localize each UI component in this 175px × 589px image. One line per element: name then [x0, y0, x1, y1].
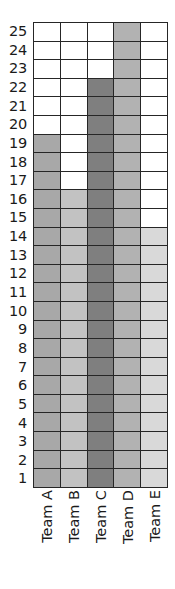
y-tick-label: 1	[0, 469, 30, 488]
grid-cell-filled	[34, 302, 60, 321]
plot-grid	[33, 22, 168, 488]
grid-cell-filled	[114, 42, 140, 61]
grid-cell-filled	[88, 79, 114, 98]
grid-cell-filled	[141, 413, 167, 432]
grid-cell-empty	[141, 135, 167, 154]
grid-cell-empty	[34, 60, 60, 79]
x-tick-label-text: Team E	[147, 490, 162, 542]
grid-cell-filled	[34, 395, 60, 414]
grid-cell-filled	[34, 339, 60, 358]
grid-cell-empty	[61, 97, 87, 116]
y-tick-label: 25	[0, 22, 30, 41]
grid-cell-filled	[34, 469, 60, 487]
grid-cell-filled	[141, 451, 167, 470]
bar-column	[88, 23, 115, 487]
grid-cell-filled	[114, 432, 140, 451]
grid-cell-filled	[61, 432, 87, 451]
y-tick-label: 4	[0, 413, 30, 432]
y-tick-label: 22	[0, 78, 30, 97]
grid-cell-empty	[88, 42, 114, 61]
grid-cell-filled	[61, 376, 87, 395]
y-tick-label: 6	[0, 376, 30, 395]
grid-cell-filled	[34, 451, 60, 470]
grid-cell-filled	[61, 228, 87, 247]
grid-cell-filled	[114, 339, 140, 358]
y-tick-label: 14	[0, 227, 30, 246]
y-tick-label: 18	[0, 152, 30, 171]
bar-column	[141, 23, 167, 487]
grid-cell-filled	[114, 135, 140, 154]
grid-cell-empty	[61, 172, 87, 191]
grid-cell-filled	[114, 451, 140, 470]
grid-cell-empty	[141, 172, 167, 191]
x-tick-label-text: Team D	[120, 490, 135, 544]
grid-cell-filled	[88, 358, 114, 377]
grid-cell-filled	[114, 60, 140, 79]
grid-cell-filled	[61, 339, 87, 358]
grid-cell-filled	[34, 153, 60, 172]
grid-cell-filled	[34, 321, 60, 340]
grid-cell-filled	[34, 209, 60, 228]
grid-cell-filled	[114, 79, 140, 98]
grid-cell-empty	[61, 79, 87, 98]
grid-cell-empty	[61, 116, 87, 135]
grid-cell-empty	[34, 23, 60, 42]
bar-column	[114, 23, 141, 487]
grid-cell-filled	[34, 172, 60, 191]
grid-cell-filled	[114, 116, 140, 135]
grid-cell-empty	[141, 190, 167, 209]
grid-cell-filled	[34, 283, 60, 302]
x-tick-label: Team B	[60, 488, 87, 589]
y-tick-label: 11	[0, 283, 30, 302]
grid-cell-filled	[114, 190, 140, 209]
grid-cell-empty	[61, 153, 87, 172]
grid-cell-filled	[34, 246, 60, 265]
grid-cell-filled	[88, 321, 114, 340]
grid-cell-filled	[34, 135, 60, 154]
grid-cell-filled	[88, 190, 114, 209]
grid-cell-filled	[114, 265, 140, 284]
grid-cell-filled	[114, 153, 140, 172]
grid-cell-filled	[141, 321, 167, 340]
grid-cell-filled	[88, 283, 114, 302]
grid-cell-empty	[141, 42, 167, 61]
grid-cell-filled	[61, 321, 87, 340]
grid-cell-filled	[61, 358, 87, 377]
y-tick-label: 24	[0, 41, 30, 60]
grid-cell-filled	[114, 246, 140, 265]
grid-cell-filled	[88, 246, 114, 265]
x-tick-label-text: Team B	[66, 490, 81, 543]
grid-cell-filled	[88, 97, 114, 116]
grid-cell-filled	[88, 172, 114, 191]
x-tick-label-text: Team C	[93, 490, 108, 543]
y-tick-label: 12	[0, 264, 30, 283]
bar-column	[34, 23, 61, 487]
grid-cell-filled	[114, 209, 140, 228]
grid-cell-filled	[114, 358, 140, 377]
grid-cell-filled	[141, 265, 167, 284]
y-tick-label: 3	[0, 432, 30, 451]
grid-cell-empty	[141, 60, 167, 79]
grid-cell-filled	[61, 302, 87, 321]
grid-cell-filled	[61, 451, 87, 470]
grid-cell-filled	[61, 209, 87, 228]
x-tick-label: Team D	[114, 488, 141, 589]
grid-cell-filled	[114, 321, 140, 340]
x-tick-label: Team A	[33, 488, 60, 589]
grid-cell-filled	[34, 265, 60, 284]
grid-cell-filled	[114, 23, 140, 42]
grid-cell-filled	[114, 97, 140, 116]
grid-cell-filled	[88, 116, 114, 135]
grid-cell-empty	[141, 79, 167, 98]
y-tick-label: 10	[0, 302, 30, 321]
grid-cell-empty	[61, 42, 87, 61]
grid-cell-empty	[141, 116, 167, 135]
grid-cell-filled	[141, 283, 167, 302]
y-tick-label: 21	[0, 97, 30, 116]
grid-cell-filled	[141, 246, 167, 265]
grid-cell-filled	[88, 265, 114, 284]
y-tick-label: 19	[0, 134, 30, 153]
grid-cell-filled	[88, 451, 114, 470]
grid-cell-empty	[61, 23, 87, 42]
grid-cell-filled	[61, 413, 87, 432]
